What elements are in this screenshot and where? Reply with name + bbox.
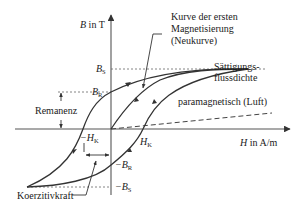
upper-branch (27, 69, 248, 187)
reference-lines (27, 69, 265, 187)
y-axis-label: B in T (80, 19, 105, 30)
remanenz-label: Remanenz (35, 105, 78, 116)
koerzitivkraft-label: Koerzitivkraft (17, 190, 74, 201)
tick-neg-br: −BR (115, 159, 133, 171)
paramagnetisch-label: paramagnetisch (Luft) (178, 96, 267, 108)
tick-neg-bs: −BS (115, 181, 132, 193)
arrow-lower-branch (152, 99, 157, 104)
tick-bs: BS (96, 63, 106, 75)
saettigung-label: Sättigungs- flussdichte (214, 61, 262, 83)
tick-hk: HK (139, 136, 152, 148)
arrow-upper-branch-top (125, 82, 131, 87)
tick-br: BR (92, 86, 103, 98)
paramagnetic-line (111, 113, 272, 129)
hysteresis-loop (27, 69, 248, 187)
tick-neg-hk: −HK (80, 132, 99, 144)
neukurve-label: Kurve der ersten Magnetisierung (Neukurv… (171, 11, 240, 47)
x-axis-label: H in A/m (239, 137, 277, 148)
hysteresis-diagram: B in T H in A/m BS BR −BR −BS HK −HK Kur… (0, 0, 300, 214)
lower-branch (27, 69, 248, 187)
